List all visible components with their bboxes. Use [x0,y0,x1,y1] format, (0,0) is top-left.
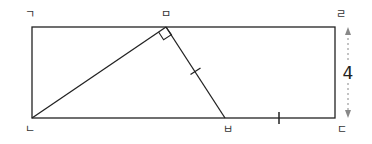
label-top-left: ㄱ [25,8,35,21]
arrow-down-icon [345,110,351,118]
dimension-label: 4 [343,63,354,83]
arrow-up-icon [345,27,351,35]
segment-top-mid-to-bottom-mid [166,27,225,118]
label-top-right: ㄹ [336,8,346,21]
label-bottom-right: ㄷ [337,123,347,136]
label-bottom-left: ㄴ [25,123,35,136]
label-bottom-mid: ㅂ [223,123,233,136]
label-top-mid: ㅁ [161,8,171,21]
segment-bottom-left-to-top-mid [32,27,166,118]
rectangle [32,27,335,118]
geometry-diagram: 4 ㄱ ㅁ ㄹ ㄴ ㅂ ㄷ [0,0,372,144]
